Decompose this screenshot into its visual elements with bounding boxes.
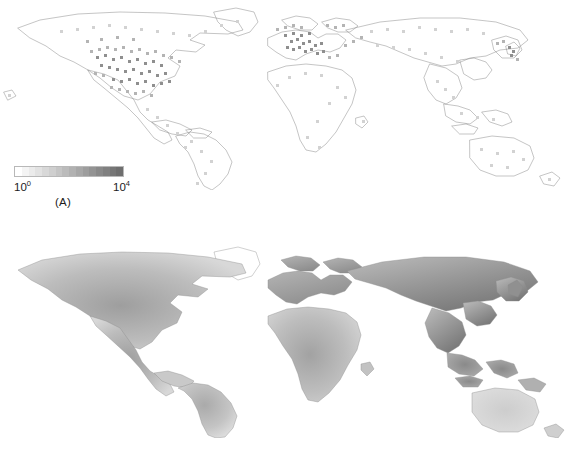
panel-a: 100 104 (A) bbox=[0, 0, 574, 232]
map-a-coastlines bbox=[4, 8, 560, 190]
colorbar-a-gradient bbox=[14, 166, 124, 177]
world-map-panel-b bbox=[0, 238, 574, 438]
map-a-svg bbox=[0, 0, 574, 190]
colorbar-panel-a: 100 104 bbox=[14, 166, 126, 198]
panel-a-label: (A) bbox=[55, 196, 71, 208]
colorbar-a-min-tick: 100 bbox=[14, 180, 31, 194]
two-panel-world-map-figure: 100 104 (A) bbox=[0, 0, 574, 469]
colorbar-a-max-tick: 104 bbox=[113, 180, 130, 194]
map-b-filled-landmasses bbox=[18, 247, 564, 438]
world-map-panel-a bbox=[0, 0, 574, 190]
map-b-svg bbox=[0, 238, 574, 438]
map-a-density-points bbox=[8, 20, 551, 185]
panel-b: 103 107 (B) bbox=[0, 238, 574, 469]
